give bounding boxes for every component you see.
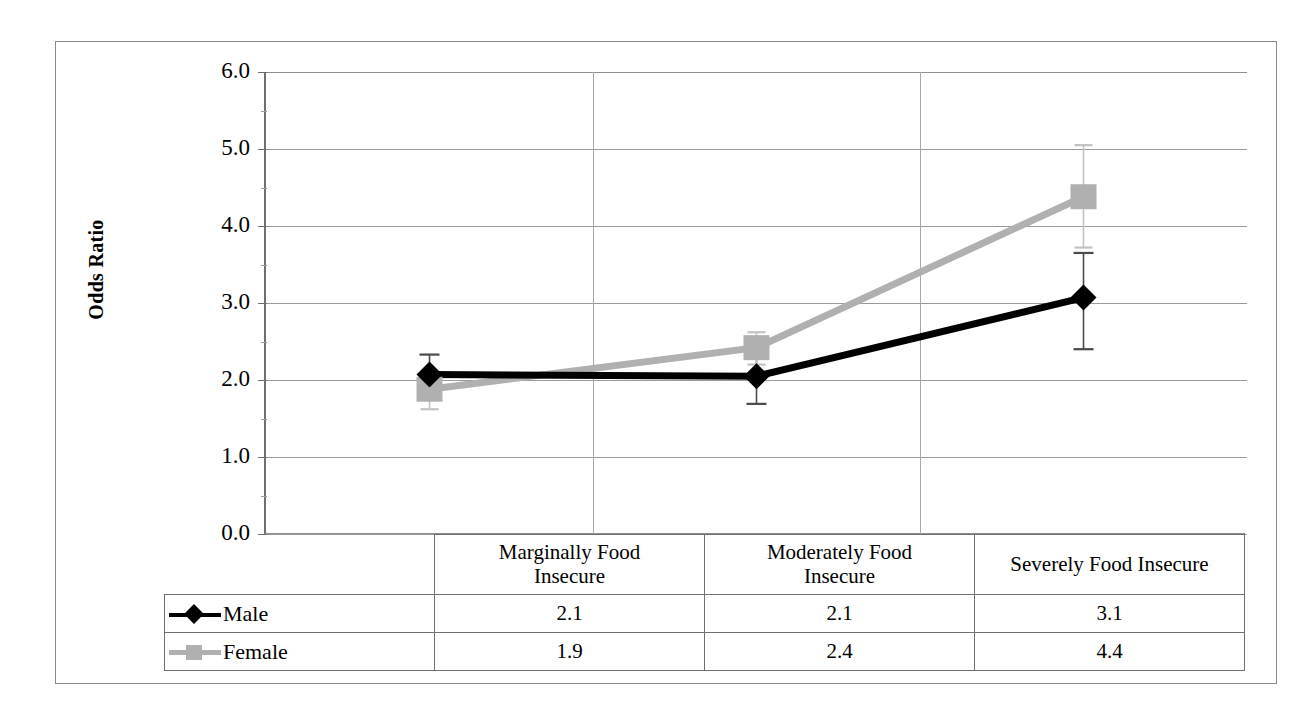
legend-square-icon <box>186 645 202 660</box>
y-axis-tick-label: 6.0 <box>180 59 250 82</box>
table-cell: 2.1 <box>435 595 705 633</box>
chart-figure: Odds Ratio 0.01.02.03.04.05.06.0 Margina… <box>0 0 1313 721</box>
category-header-line: Severely Food Insecure <box>981 553 1238 577</box>
category-header-3: Severely Food Insecure <box>975 535 1245 595</box>
table-cell: 2.4 <box>705 633 975 671</box>
y-axis-tick-label: 2.0 <box>180 367 250 390</box>
legend-cell-female: Female <box>165 633 435 671</box>
y-axis-tick-label: 5.0 <box>180 136 250 159</box>
legend-marker-diamond-icon <box>169 604 221 624</box>
data-marker-female <box>744 335 770 360</box>
legend-marker-square-icon <box>169 642 221 662</box>
data-table: Marginally FoodInsecureModerately FoodIn… <box>164 534 1245 671</box>
legend-entry: Male <box>165 596 434 632</box>
table-cell: 2.1 <box>705 595 975 633</box>
y-axis-title: Odds Ratio <box>85 170 108 370</box>
legend-cell-male: Male <box>165 595 435 633</box>
y-axis-tick-label: 3.0 <box>180 290 250 313</box>
category-header-line: Marginally Food <box>441 541 698 565</box>
data-marker-male <box>1071 285 1097 311</box>
category-header-1: Marginally FoodInsecure <box>435 535 705 595</box>
table-row: Male2.12.13.1 <box>165 595 1245 633</box>
legend-diamond-icon <box>184 604 204 624</box>
legend-entry: Female <box>165 634 434 670</box>
category-header-line: Insecure <box>441 565 698 589</box>
table-header-row: Marginally FoodInsecureModerately FoodIn… <box>165 535 1245 595</box>
y-axis-tick-label: 1.0 <box>180 444 250 467</box>
legend-label: Male <box>221 601 268 627</box>
data-marker-male <box>744 363 770 389</box>
table-cell: 4.4 <box>975 633 1245 671</box>
category-header-line: Moderately Food <box>711 541 968 565</box>
legend-label: Female <box>221 639 288 665</box>
table-row: Female1.92.44.4 <box>165 633 1245 671</box>
table-cell: 1.9 <box>435 633 705 671</box>
category-header-line: Insecure <box>711 565 968 589</box>
category-header-2: Moderately FoodInsecure <box>705 535 975 595</box>
y-axis-tick-label: 4.0 <box>180 213 250 236</box>
data-marker-female <box>1071 184 1097 209</box>
series-layer <box>266 72 1247 534</box>
table-corner-cell <box>165 535 435 595</box>
plot-area <box>264 72 1245 534</box>
table-cell: 3.1 <box>975 595 1245 633</box>
